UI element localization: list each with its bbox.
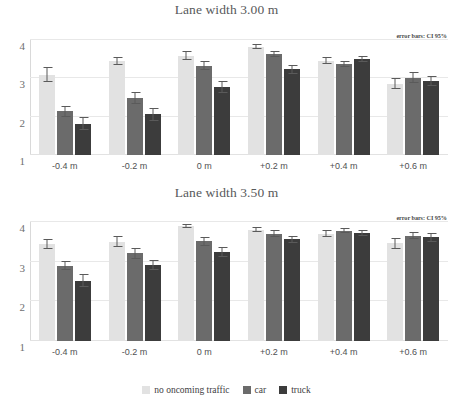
error-bar: [255, 44, 256, 49]
bar[interactable]: [354, 59, 370, 155]
bar[interactable]: [336, 231, 352, 341]
bar-group-bars: [169, 222, 239, 341]
legend: no oncoming traffic car truck: [0, 385, 453, 395]
bar-group-bars: [100, 222, 170, 341]
bar-slot: [318, 222, 334, 341]
bar[interactable]: [318, 61, 334, 155]
bar-slot: [248, 40, 264, 155]
error-bar: [222, 81, 223, 92]
bar[interactable]: [318, 234, 334, 341]
bar-slot: [57, 222, 73, 341]
bar[interactable]: [196, 66, 212, 155]
legend-item[interactable]: car: [243, 385, 267, 395]
error-bar: [361, 56, 362, 62]
bar-group: +0.4 m: [309, 222, 379, 341]
bar[interactable]: [266, 54, 282, 155]
legend-item[interactable]: truck: [279, 385, 311, 395]
bar[interactable]: [127, 253, 143, 341]
bar[interactable]: [57, 111, 73, 155]
bar[interactable]: [127, 98, 143, 155]
x-axis-tick-label: +0.6 m: [378, 161, 448, 171]
bar-slot: [284, 222, 300, 341]
bar-slot: [423, 222, 439, 341]
bar[interactable]: [387, 84, 403, 155]
error-bar: [82, 117, 83, 129]
bar-slot: [39, 40, 55, 155]
bar[interactable]: [39, 244, 55, 341]
error-bar: [273, 51, 274, 57]
bar[interactable]: [214, 87, 230, 155]
bar[interactable]: [423, 237, 439, 341]
bar-slot: [127, 40, 143, 155]
bar[interactable]: [284, 69, 300, 155]
bar[interactable]: [145, 265, 161, 341]
bar[interactable]: [284, 239, 300, 341]
legend-swatch-icon: [142, 386, 150, 394]
bar-slot: [354, 222, 370, 341]
error-bar: [395, 238, 396, 249]
bar-slot: [196, 40, 212, 155]
bar-slot: [266, 40, 282, 155]
x-axis-tick-label: +0.4 m: [309, 161, 379, 171]
bar[interactable]: [196, 241, 212, 341]
bar[interactable]: [423, 81, 439, 155]
error-bar: [116, 57, 117, 64]
bar-group-bars: [378, 222, 448, 341]
bar[interactable]: [336, 64, 352, 155]
error-bar: [413, 72, 414, 83]
bar-group-bars: [239, 222, 309, 341]
bar[interactable]: [387, 243, 403, 341]
bar-slot: [196, 222, 212, 341]
x-axis-tick-label: 0 m: [169, 347, 239, 357]
bar[interactable]: [109, 242, 125, 341]
bar-group: -0.2 m: [100, 222, 170, 341]
bar[interactable]: [248, 47, 264, 155]
bar[interactable]: [178, 56, 194, 155]
bar-slot: [405, 222, 421, 341]
bar-slot: [284, 40, 300, 155]
x-axis-tick-label: -0.4 m: [30, 161, 100, 171]
bar-slot: [336, 40, 352, 155]
bar-slot: [109, 40, 125, 155]
bar-group-bars: [378, 40, 448, 155]
x-axis-tick-label: +0.4 m: [309, 347, 379, 357]
error-bar-note: error bars: CI 95%: [396, 32, 447, 39]
bar[interactable]: [109, 61, 125, 155]
error-bar: [116, 236, 117, 248]
error-bar: [46, 239, 47, 249]
error-bar: [134, 92, 135, 105]
bar[interactable]: [354, 233, 370, 341]
bar[interactable]: [57, 266, 73, 341]
x-axis-tick-label: -0.2 m: [100, 161, 170, 171]
bar[interactable]: [39, 75, 55, 155]
error-bar: [64, 261, 65, 270]
legend-item[interactable]: no oncoming traffic: [142, 385, 229, 395]
error-bar: [395, 78, 396, 90]
error-bar: [186, 51, 187, 61]
bar[interactable]: [266, 234, 282, 341]
error-bar: [431, 233, 432, 242]
bar-slot: [75, 40, 91, 155]
plot-area: 1234 -0.4 m-0.2 m0 m+0.2 m+0.4 m+0.6 m: [30, 222, 448, 341]
bar-slot: [248, 222, 264, 341]
bar[interactable]: [248, 230, 264, 341]
bar-slot: [127, 222, 143, 341]
bar-group-bars: [30, 222, 100, 341]
chart-panel-lane-width-350: Lane width 3.50 m error bars: CI 95% 123…: [0, 183, 453, 365]
error-bar: [343, 61, 344, 67]
x-axis-tick-label: +0.2 m: [239, 347, 309, 357]
bar[interactable]: [178, 226, 194, 341]
bar-group: 0 m: [169, 40, 239, 155]
bar[interactable]: [75, 281, 91, 341]
bar[interactable]: [214, 252, 230, 341]
error-bar: [152, 108, 153, 120]
bar[interactable]: [405, 236, 421, 342]
bar-group-bars: [169, 40, 239, 155]
error-bar: [222, 247, 223, 257]
legend-swatch-icon: [243, 386, 251, 394]
error-bar: [204, 237, 205, 246]
bar-group: -0.4 m: [30, 222, 100, 341]
bar[interactable]: [405, 78, 421, 155]
bar-group-bars: [309, 40, 379, 155]
bar-slot: [423, 40, 439, 155]
